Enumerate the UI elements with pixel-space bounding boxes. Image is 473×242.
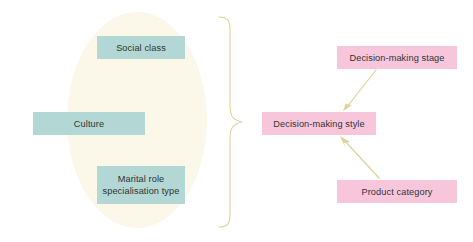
node-decision-making-stage-label: Decision-making stage bbox=[349, 52, 444, 64]
node-decision-making-style[interactable]: Decision-making style bbox=[262, 112, 376, 135]
node-culture-label: Culture bbox=[74, 118, 104, 130]
node-culture[interactable]: Culture bbox=[33, 112, 145, 135]
node-marital-role[interactable]: Marital role specialisation type bbox=[97, 166, 185, 204]
diagram-canvas: Social class Culture Marital role specia… bbox=[0, 0, 473, 242]
node-marital-role-label: Marital role specialisation type bbox=[103, 173, 180, 197]
node-product-category[interactable]: Product category bbox=[337, 180, 457, 203]
node-social-class-label: Social class bbox=[116, 42, 166, 54]
node-social-class[interactable]: Social class bbox=[97, 36, 185, 59]
node-product-category-label: Product category bbox=[361, 186, 432, 198]
grouping-brace-icon bbox=[219, 17, 242, 227]
node-marital-role-label-line1: Marital role bbox=[118, 174, 165, 184]
arrow-stage-to-style bbox=[343, 70, 376, 111]
node-decision-making-style-label: Decision-making style bbox=[273, 118, 364, 130]
arrow-product-to-style bbox=[340, 136, 379, 178]
arrowhead-down-left-icon bbox=[343, 98, 352, 111]
node-decision-making-stage[interactable]: Decision-making stage bbox=[337, 46, 457, 69]
node-marital-role-label-line2: specialisation type bbox=[103, 186, 180, 196]
arrowhead-up-left-icon bbox=[340, 136, 350, 149]
